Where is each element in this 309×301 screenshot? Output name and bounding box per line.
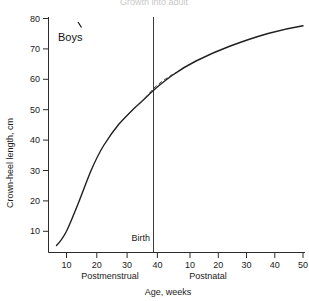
- x-axis-tick-labels-postmenstrual: 10 20 30 40: [61, 260, 162, 270]
- x-tick-label: 20: [213, 260, 223, 270]
- birth-line-label: Birth: [131, 233, 150, 243]
- growth-chart-figure: Growth into adult 80 70 60 50 40 30 20 1…: [0, 0, 309, 301]
- y-axis-ticks: [43, 19, 49, 232]
- y-axis-tick-labels: 80 70 60 50 40 30 20 10: [30, 14, 40, 237]
- y-tick-label: 70: [30, 44, 40, 54]
- x-tick-label: 40: [270, 260, 280, 270]
- x-tick-label: 10: [61, 260, 71, 270]
- y-axis-title: Crown-heel length, cm: [5, 118, 15, 208]
- y-tick-label: 60: [30, 74, 40, 84]
- x-tick-label: 40: [152, 260, 162, 270]
- x-tick-label: 50: [298, 260, 308, 270]
- x-axis-group-label-postmenstrual: Postmenstrual: [81, 271, 139, 281]
- y-tick-label: 80: [30, 14, 40, 24]
- series-annotation-boys: Boys: [58, 22, 83, 43]
- y-tick-label: 30: [30, 166, 40, 176]
- y-tick-label: 10: [30, 226, 40, 236]
- x-tick-label: 10: [185, 260, 195, 270]
- series-annotation-label: Boys: [58, 31, 83, 43]
- x-tick-label: 30: [241, 260, 251, 270]
- x-axis-tick-labels-postnatal: 10 20 30 40 50: [185, 260, 308, 270]
- growth-curve-boys: [57, 26, 304, 246]
- boys-pointer-tick: [78, 22, 82, 28]
- x-axis-ticks-postnatal: [190, 253, 303, 259]
- y-tick-label: 40: [30, 135, 40, 145]
- figure-title: Growth into adult: [120, 0, 189, 7]
- x-tick-label: 30: [122, 260, 132, 270]
- x-axis-title: Age, weeks: [145, 287, 192, 297]
- x-axis-group-label-postnatal: Postnatal: [189, 271, 227, 281]
- x-axis-ticks-postmenstrual: [67, 253, 158, 259]
- y-tick-label: 20: [30, 196, 40, 206]
- y-tick-label: 50: [30, 105, 40, 115]
- x-tick-label: 20: [92, 260, 102, 270]
